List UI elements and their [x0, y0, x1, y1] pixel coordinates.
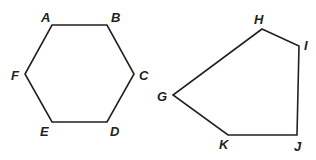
polygon-diagram: A B C D E F H I J K G [0, 0, 316, 160]
pentagon-GHIJK [173, 29, 299, 135]
vertex-label-B: B [111, 10, 120, 25]
vertex-label-D: D [110, 124, 120, 139]
pentagon-vertex-labels: H I J K G [157, 12, 308, 154]
hexagon-vertex-labels: A B C D E F [11, 10, 149, 139]
vertex-label-A: A [40, 10, 50, 25]
vertex-label-I: I [304, 38, 308, 53]
vertex-label-E: E [40, 124, 49, 139]
hexagon-ABCDEF [25, 25, 134, 122]
vertex-label-C: C [139, 68, 149, 83]
vertex-label-F: F [11, 68, 20, 83]
vertex-label-H: H [254, 12, 264, 27]
vertex-label-J: J [294, 139, 302, 154]
diagram-svg: A B C D E F H I J K G [0, 0, 316, 160]
vertex-label-K: K [219, 137, 230, 152]
vertex-label-G: G [157, 89, 167, 104]
